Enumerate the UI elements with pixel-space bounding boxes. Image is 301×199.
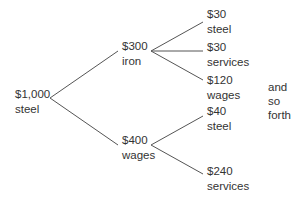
node-amount: $400 <box>122 133 155 148</box>
node-amount: $120 <box>207 73 240 88</box>
node-wages-services: $240 services <box>207 164 249 194</box>
node-label: services <box>207 179 249 194</box>
node-wages-steel: $40 steel <box>207 104 231 134</box>
edge-iron-wages <box>151 51 203 80</box>
node-amount: $40 <box>207 104 231 119</box>
node-label: steel <box>15 102 50 117</box>
node-amount: $240 <box>207 164 249 179</box>
edge-wages-steel <box>151 116 203 145</box>
node-amount: $300 <box>122 39 148 54</box>
node-label: iron <box>122 54 148 69</box>
node-iron-services: $30 services <box>207 40 249 70</box>
edge-wages-services <box>151 145 203 174</box>
node-root: $1,000 steel <box>15 87 50 117</box>
note-line: and <box>268 80 291 94</box>
edge-root-wages <box>50 98 118 145</box>
node-iron: $300 iron <box>122 39 148 69</box>
node-amount: $30 <box>207 7 231 22</box>
node-iron-steel: $30 steel <box>207 7 231 37</box>
edge-root-iron <box>50 51 118 98</box>
note-line: forth <box>268 108 291 122</box>
node-label: steel <box>207 119 231 134</box>
node-label: steel <box>207 22 231 37</box>
node-amount: $30 <box>207 40 249 55</box>
node-label: wages <box>207 88 240 103</box>
note-line: so <box>268 94 291 108</box>
node-label: services <box>207 55 249 70</box>
node-wages: $400 wages <box>122 133 155 163</box>
note-and-so-forth: and so forth <box>268 80 291 122</box>
node-amount: $1,000 <box>15 87 50 102</box>
node-iron-wages: $120 wages <box>207 73 240 103</box>
node-label: wages <box>122 148 155 163</box>
edge-iron-steel <box>151 22 203 51</box>
